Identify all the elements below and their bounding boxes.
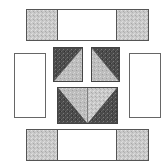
half-square-triangle-top-right (91, 47, 120, 82)
bottom-bar-left-gray-square (27, 130, 58, 160)
top-bar-white-center (58, 10, 116, 40)
half-square-triangle-top-left (53, 47, 83, 82)
top-bar-left-gray-square (27, 10, 58, 40)
bottom-sashing-bar (26, 129, 149, 161)
flying-geese-block (57, 87, 118, 124)
bottom-bar-right-gray-square (116, 130, 148, 160)
top-bar-right-gray-square (116, 10, 148, 40)
right-white-rectangle (129, 53, 161, 118)
bottom-bar-white-center (58, 130, 116, 160)
left-white-rectangle (14, 53, 46, 118)
top-sashing-bar (26, 9, 149, 41)
